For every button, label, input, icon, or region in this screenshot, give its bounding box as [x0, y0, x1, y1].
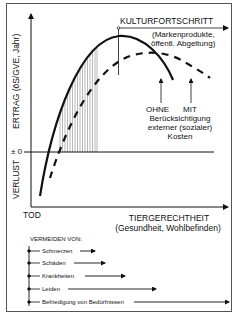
culture-axis-title: KULTURFORTSCHRITT [120, 17, 213, 26]
label-externer-kosten: externer (sozialer) [130, 124, 230, 132]
avoidance-item-krankheiten: Krankheiten [42, 273, 74, 279]
label-mit: MIT [183, 106, 197, 114]
label-ohne: OHNE [146, 106, 169, 114]
label-beruecksichtigung: Berücksichtigung [130, 115, 230, 123]
peak-marker [117, 27, 120, 30]
y-axis-label-verlust: VERLUST [11, 160, 21, 199]
x-axis-title: TIERGERECHTHEIT [106, 214, 232, 223]
avoidance-item-schmerzen: Schmerzen [42, 248, 72, 254]
avoidance-item-beduerfnisse: Befriedigung von Bedürfnissen [42, 299, 124, 305]
avoidance-item-leiden: Leiden [42, 286, 60, 292]
y-axis-label-ertrag: ERTRAG (öS/GVE, Jahr) [11, 34, 21, 129]
avoidance-title: VERMEIDEN VON: [30, 236, 82, 242]
avoidance-item-schaeden: Schäden [42, 260, 66, 266]
culture-axis-subtitle-2: öffentl. Abgeltung) [151, 40, 215, 48]
label-kosten: Kosten [130, 133, 230, 141]
culture-axis-subtitle-1: (Markenprodukte, [152, 31, 215, 39]
x-origin-label-tod: TOD [23, 211, 41, 220]
zero-label: ± 0 [11, 148, 22, 156]
x-axis-subtitle: (Gesundheit, Wohlbefinden) [104, 224, 232, 233]
